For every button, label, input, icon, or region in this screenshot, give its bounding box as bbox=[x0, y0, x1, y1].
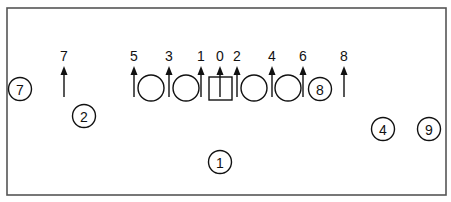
callout-2: 2 bbox=[73, 105, 96, 128]
arrow-label: 1 bbox=[197, 48, 205, 64]
callout-label: 2 bbox=[80, 109, 88, 125]
arrow-2: 2 bbox=[233, 48, 241, 97]
open-circle bbox=[275, 75, 301, 101]
open-circle bbox=[138, 75, 164, 101]
arrow-up-icon bbox=[198, 66, 205, 75]
callout-4: 4 bbox=[372, 118, 395, 141]
open-circle bbox=[173, 75, 199, 101]
callout-1: 1 bbox=[209, 151, 232, 174]
arrow-up-icon bbox=[234, 66, 241, 75]
arrow-label: 7 bbox=[60, 48, 68, 64]
arrow-7: 7 bbox=[60, 48, 68, 97]
arrow-up-icon bbox=[131, 66, 138, 75]
callout-label: 9 bbox=[425, 122, 433, 138]
open-circle bbox=[241, 75, 267, 101]
arrow-up-icon bbox=[217, 66, 224, 75]
callout-9: 9 bbox=[418, 118, 441, 141]
callout-label: 4 bbox=[379, 122, 387, 138]
callout-label: 1 bbox=[216, 155, 224, 171]
diagram-canvas: 7 5 3 1 0 2 4 6 8 bbox=[0, 0, 451, 202]
arrow-label: 5 bbox=[130, 48, 138, 64]
arrow-8: 8 bbox=[340, 48, 348, 97]
arrow-label: 0 bbox=[216, 48, 224, 64]
arrow-up-icon bbox=[300, 66, 307, 75]
arrow-label: 2 bbox=[233, 48, 241, 64]
callout-label: 7 bbox=[16, 82, 24, 98]
callout-label: 8 bbox=[316, 82, 324, 98]
arrow-3: 3 bbox=[165, 48, 173, 97]
arrow-up-icon bbox=[269, 66, 276, 75]
arrow-label: 6 bbox=[299, 48, 307, 64]
arrow-label: 3 bbox=[165, 48, 173, 64]
callout-8: 8 bbox=[309, 78, 332, 101]
arrow-5: 5 bbox=[130, 48, 138, 97]
arrow-0: 0 bbox=[216, 48, 224, 97]
arrow-label: 8 bbox=[340, 48, 348, 64]
arrow-up-icon bbox=[166, 66, 173, 75]
arrow-label: 4 bbox=[268, 48, 276, 64]
arrow-up-icon bbox=[61, 66, 68, 75]
callout-7: 7 bbox=[9, 78, 32, 101]
arrow-up-icon bbox=[341, 66, 348, 75]
